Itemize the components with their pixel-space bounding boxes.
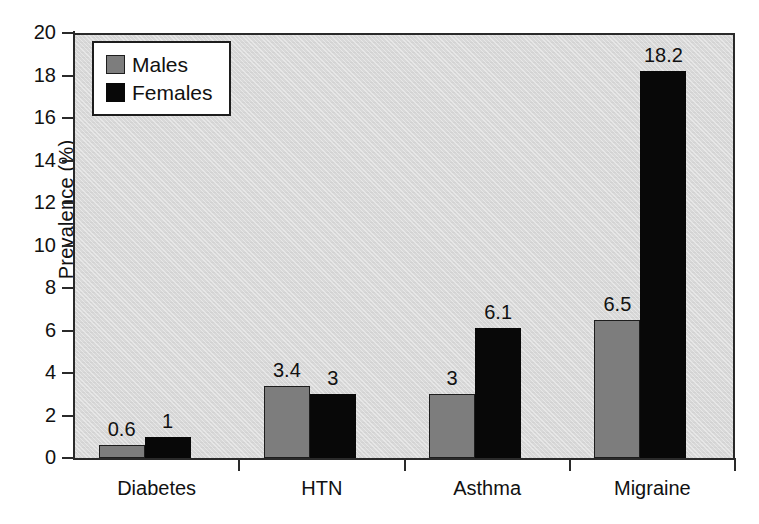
y-tick-label: 14 <box>2 150 56 170</box>
y-tick-label: 16 <box>2 107 56 127</box>
bar-males <box>429 394 475 458</box>
x-tick-mark <box>569 458 571 471</box>
legend-swatch-males-icon <box>106 55 125 74</box>
bar-value-label: 18.2 <box>623 45 703 65</box>
bar-females <box>475 328 521 458</box>
x-tick-label: Migraine <box>562 476 742 500</box>
x-tick-label: HTN <box>232 476 412 500</box>
legend-label-females: Females <box>132 82 213 103</box>
chart-legend: Males Females <box>92 41 231 116</box>
y-tick-mark <box>62 117 74 119</box>
y-tick-mark <box>62 202 74 204</box>
bar-males <box>594 320 640 458</box>
bar-value-label: 3 <box>293 368 373 388</box>
y-tick-label: 20 <box>2 22 56 42</box>
y-tick-label: 10 <box>2 235 56 255</box>
bar-females <box>310 394 356 458</box>
bar-chart-figure: Prevalence (%) 02468101214161820 Diabete… <box>0 0 759 524</box>
legend-item-males: Males <box>106 50 213 78</box>
y-tick-label: 0 <box>2 447 56 467</box>
y-tick-label: 4 <box>2 362 56 382</box>
x-tick-label: Diabetes <box>67 476 247 500</box>
y-tick-mark <box>62 160 74 162</box>
legend-label-males: Males <box>132 54 188 75</box>
y-tick-mark <box>62 372 74 374</box>
y-tick-mark <box>62 245 74 247</box>
y-tick-mark <box>62 75 74 77</box>
legend-swatch-females-icon <box>106 83 125 102</box>
bar-males <box>99 445 145 458</box>
x-tick-label: Asthma <box>397 476 577 500</box>
y-tick-label: 8 <box>2 277 56 297</box>
y-tick-label: 6 <box>2 320 56 340</box>
bar-value-label: 1 <box>128 411 208 431</box>
y-tick-label: 18 <box>2 65 56 85</box>
y-tick-label: 12 <box>2 192 56 212</box>
y-tick-mark <box>62 415 74 417</box>
y-tick-mark <box>62 287 74 289</box>
y-tick-mark <box>62 32 74 34</box>
bar-males <box>264 386 310 458</box>
legend-item-females: Females <box>106 78 213 106</box>
bar-females <box>640 71 686 458</box>
x-tick-mark <box>238 458 240 471</box>
y-tick-label: 2 <box>2 405 56 425</box>
x-tick-mark <box>404 458 406 471</box>
y-tick-mark <box>62 330 74 332</box>
bar-females <box>145 437 191 458</box>
bar-value-label: 6.1 <box>458 302 538 322</box>
x-tick-mark <box>734 458 736 471</box>
y-tick-mark <box>62 457 74 459</box>
